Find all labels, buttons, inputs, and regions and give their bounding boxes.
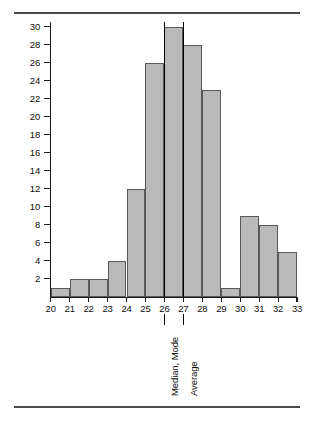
y-tick-mark <box>44 116 50 117</box>
x-tick-label: 28 <box>192 304 212 314</box>
x-tick-mark <box>126 297 127 302</box>
histogram-bar <box>51 288 70 297</box>
x-tick-mark <box>88 297 89 302</box>
histogram-figure: Number of occurrences 246810121416182022… <box>0 0 314 422</box>
y-tick-mark <box>44 188 50 189</box>
histogram-bar <box>240 216 259 297</box>
x-tick-mark <box>107 297 108 302</box>
y-tick-mark <box>44 170 50 171</box>
histogram-bar <box>89 279 108 297</box>
histogram-bar <box>127 189 146 297</box>
y-tick-label: 2 <box>35 274 40 284</box>
histogram-bar <box>259 225 278 297</box>
x-tick-mark <box>221 297 222 302</box>
annotation-label: Median, Mode <box>169 337 180 396</box>
x-tick-label: 21 <box>60 304 80 314</box>
annotation-tick-stub <box>164 314 166 325</box>
x-tick-label: 30 <box>230 304 250 314</box>
histogram-bar <box>70 279 89 297</box>
x-tick-label: 29 <box>211 304 231 314</box>
y-tick-label: 10 <box>30 202 40 212</box>
x-tick-mark <box>50 297 51 302</box>
annotation-vertical-line <box>164 22 166 297</box>
histogram-bar <box>221 288 240 297</box>
annotation-label: Average <box>188 361 199 396</box>
y-tick-label: 14 <box>30 166 40 176</box>
x-tick-label: 31 <box>249 304 269 314</box>
y-tick-mark <box>44 152 50 153</box>
x-tick-label: 33 <box>287 304 307 314</box>
x-tick-mark <box>240 297 241 302</box>
y-tick-label: 16 <box>30 148 40 158</box>
y-tick-label: 30 <box>30 22 40 32</box>
x-tick-label: 25 <box>135 304 155 314</box>
x-tick-label: 32 <box>268 304 288 314</box>
y-tick-label: 26 <box>30 58 40 68</box>
x-tick-label: 23 <box>98 304 118 314</box>
x-tick-label: 24 <box>117 304 137 314</box>
y-tick-label: 4 <box>35 256 40 266</box>
y-tick-mark <box>44 44 50 45</box>
y-tick-mark <box>44 278 50 279</box>
y-tick-mark <box>44 242 50 243</box>
histogram-bar <box>278 252 297 297</box>
x-tick-mark <box>296 297 297 302</box>
y-tick-label: 28 <box>30 40 40 50</box>
y-tick-mark <box>44 224 50 225</box>
y-tick-mark <box>44 62 50 63</box>
histogram-bar <box>164 27 183 297</box>
y-tick-mark <box>44 80 50 81</box>
y-tick-label: 8 <box>35 220 40 230</box>
annotation-tick-stub <box>183 314 185 325</box>
y-tick-label: 6 <box>35 238 40 248</box>
x-tick-mark <box>183 297 184 302</box>
histogram-bar <box>108 261 127 297</box>
y-tick-label: 18 <box>30 130 40 140</box>
annotation-vertical-line <box>183 22 185 297</box>
x-tick-mark <box>278 297 279 302</box>
y-tick-label: 22 <box>30 94 40 104</box>
plot-area: Number of occurrences 246810121416182022… <box>0 0 314 422</box>
histogram-bar <box>183 45 202 297</box>
y-tick-label: 20 <box>30 112 40 122</box>
histogram-bar <box>202 90 221 297</box>
y-tick-mark <box>44 134 50 135</box>
x-tick-mark <box>145 297 146 302</box>
y-tick-mark <box>44 206 50 207</box>
x-tick-label: 26 <box>154 304 174 314</box>
x-tick-label: 22 <box>79 304 99 314</box>
y-tick-mark <box>44 26 50 27</box>
y-tick-label: 12 <box>30 184 40 194</box>
x-tick-label: 20 <box>41 304 61 314</box>
x-tick-mark <box>202 297 203 302</box>
y-tick-mark <box>44 98 50 99</box>
y-tick-mark <box>44 260 50 261</box>
x-tick-mark <box>69 297 70 302</box>
x-tick-mark <box>259 297 260 302</box>
y-axis-line <box>50 22 51 298</box>
y-tick-label: 24 <box>30 76 40 86</box>
x-tick-mark <box>164 297 165 302</box>
x-tick-label: 27 <box>173 304 193 314</box>
histogram-bar <box>145 63 164 297</box>
